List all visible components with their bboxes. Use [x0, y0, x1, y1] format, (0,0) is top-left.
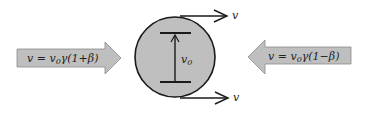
top-velocity-label: v	[232, 9, 239, 22]
left-arrow-label: v = v0γ(1+β)	[27, 52, 98, 66]
bottom-velocity-label: v	[233, 91, 240, 104]
right-arrow-label: v = v0γ(1−β)	[268, 50, 339, 64]
left-incoming-arrow: v = v0γ(1+β)	[17, 42, 121, 74]
diagram-canvas: v = v0γ(1+β) v = v0γ(1−β) v0 v	[0, 0, 370, 114]
right-incoming-arrow: v = v0γ(1−β)	[248, 40, 351, 74]
